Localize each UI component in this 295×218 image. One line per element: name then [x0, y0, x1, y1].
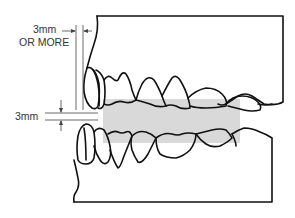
- clearance-label-line2: OR MORE: [19, 36, 69, 48]
- horizontal-dimension-3mm-or-more: 3mm OR MORE: [19, 23, 92, 110]
- vertical-dimension-3mm: 3mm: [15, 100, 98, 131]
- upper-jaw-model: [84, 16, 283, 111]
- clearance-label-line1: 3mm: [33, 23, 57, 35]
- dental-diagram: 3mm OR MORE 3mm: [0, 0, 295, 218]
- thickness-label: 3mm: [15, 110, 39, 122]
